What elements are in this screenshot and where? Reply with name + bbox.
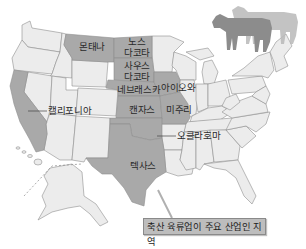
- state-florida: [204, 160, 256, 204]
- state-alaska: [38, 164, 108, 226]
- legend-label: 축산 육류업이 주요 산업인 지역: [144, 219, 265, 249]
- leader-line-legend: [158, 190, 172, 218]
- label-north-dakota-line2: 다코타: [122, 47, 152, 58]
- state-indiana: [196, 84, 208, 112]
- label-south-dakota-line1: 사우스: [120, 60, 154, 71]
- label-south-dakota-line2: 다코타: [120, 71, 154, 82]
- label-iowa: 아이오와: [161, 82, 196, 93]
- label-oklahoma: 오클라호마: [177, 130, 221, 141]
- state-new-mexico: [72, 116, 110, 162]
- label-texas: 텍사스: [130, 160, 156, 171]
- label-north-dakota: 노스 다코타: [122, 36, 152, 58]
- label-missouri: 미주리: [166, 104, 192, 115]
- state-wyoming: [72, 60, 108, 87]
- label-kansas: 캔자스: [129, 104, 155, 115]
- label-north-dakota-line1: 노스: [122, 36, 152, 47]
- label-nebraska: 네브래스카: [117, 84, 161, 95]
- label-california: 캘리포니아: [48, 105, 92, 116]
- label-montana: 몬태나: [79, 41, 105, 52]
- state-arizona: [44, 113, 76, 160]
- label-south-dakota: 사우스 다코타: [120, 60, 154, 82]
- map-legend: 축산 육류업이 주요 산업인 지역: [143, 218, 266, 235]
- state-new-york: [232, 52, 274, 78]
